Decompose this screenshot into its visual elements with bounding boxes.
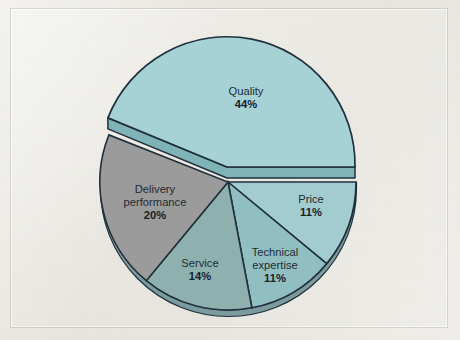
label-delivery-performance-name-line2: performance [124, 196, 187, 208]
label-delivery-performance-name-line1: Delivery [135, 183, 176, 195]
label-quality-percent: 44% [235, 98, 257, 110]
pie-chart: Quality 44% Price 11% Technical expertis… [0, 0, 460, 340]
label-service-name: Service [181, 257, 218, 269]
slice-quality[interactable] [108, 37, 355, 167]
label-technical-expertise-name-line2: expertise [252, 259, 297, 271]
chart-figure: Quality 44% Price 11% Technical expertis… [0, 0, 460, 340]
label-delivery-performance-percent: 20% [144, 209, 166, 221]
label-price-percent: 11% [300, 206, 322, 218]
label-technical-expertise-percent: 11% [264, 272, 286, 284]
label-price-name: Price [298, 193, 324, 205]
label-technical-expertise-name-line1: Technical [252, 246, 299, 258]
label-quality-name: Quality [229, 85, 264, 97]
label-service-percent: 14% [189, 270, 211, 282]
